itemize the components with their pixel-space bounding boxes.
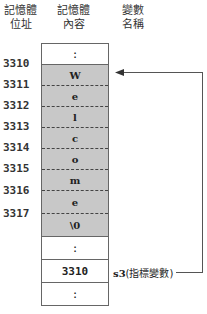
memory-cell-3314: o [42, 149, 108, 170]
memory-cell-3315: m [42, 170, 108, 191]
memory-cell-3313: c [42, 128, 108, 149]
address-label: 3313 [3, 120, 30, 133]
memory-cell-3317: \0 [42, 214, 108, 237]
pointer-arrow-segment-bottom [176, 272, 203, 273]
address-label: 3311 [3, 78, 30, 91]
header-content-line1: 記憶體 [57, 4, 90, 18]
memory-column: : W e l c o m e \0 : 3310 : [41, 43, 109, 306]
header-content-line2: 內容 [57, 18, 90, 32]
address-label: 3317 [3, 207, 30, 220]
pointer-arrow-segment-vertical [202, 72, 203, 273]
header-address-line2: 位址 [4, 18, 37, 32]
address-label: 3312 [3, 99, 30, 112]
memory-cell-3311: e [42, 86, 108, 107]
header-address: 記憶體 位址 [4, 4, 37, 32]
address-label: 3316 [3, 184, 30, 197]
address-label: 3314 [3, 141, 30, 154]
memory-cell-3316: e [42, 191, 108, 214]
header-address-line1: 記憶體 [4, 4, 37, 18]
header-variable: 變數 名稱 [122, 4, 144, 32]
memory-cell-pointer-value: 3310 [42, 260, 108, 283]
address-label: 3310 [3, 57, 30, 70]
memory-cell-ellipsis-bottom: : [42, 283, 108, 306]
memory-cell-ellipsis-mid: : [42, 237, 108, 260]
memory-cell-3310: W [42, 65, 108, 86]
pointer-arrow-segment-top [122, 72, 203, 73]
pointer-variable-name: s3 [113, 268, 126, 279]
memory-cell-3312: l [42, 107, 108, 128]
arrowhead-icon [115, 68, 124, 77]
pointer-variable-description: (指標變數) [126, 268, 174, 279]
pointer-variable-label: s3(指標變數) [113, 265, 173, 280]
memory-cell-ellipsis-top: : [42, 44, 108, 65]
header-variable-line2: 名稱 [122, 18, 144, 32]
header-content: 記憶體 內容 [57, 4, 90, 32]
header-variable-line1: 變數 [122, 4, 144, 18]
address-label: 3315 [3, 162, 30, 175]
